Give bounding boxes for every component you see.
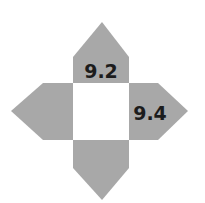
left-arrow: [11, 83, 73, 140]
top-arrow-label: 9.2: [84, 60, 118, 82]
cross-arrow-diagram: 9.2 9.4: [0, 0, 205, 203]
bottom-arrow: [73, 140, 129, 200]
right-arrow-label: 9.4: [133, 102, 167, 124]
center-square: [73, 83, 129, 140]
